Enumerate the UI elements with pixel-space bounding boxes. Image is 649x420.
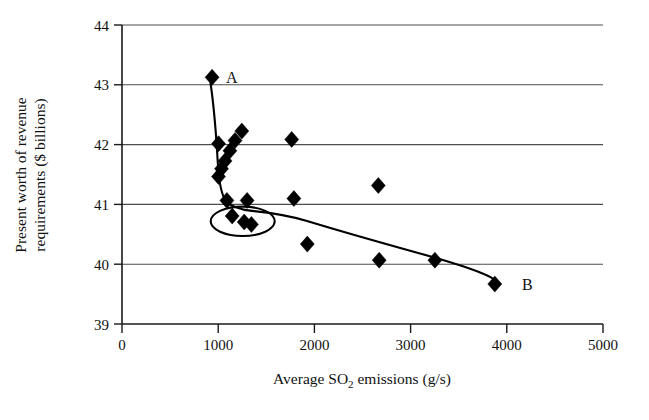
data-point [212,136,226,152]
y-tick-label-40: 40 [94,257,109,273]
data-point [428,252,442,268]
x-tick-label-0: 0 [118,337,126,353]
gridlines-group [122,25,603,264]
y-tick-label-41: 41 [94,197,109,213]
y-axis-title: Present worth of revenue requirements ($… [12,97,49,252]
data-point [225,208,239,224]
x-axis-title-prefix: Average SO [273,370,348,387]
y-axis-title-line2: requirements ($ billions) [31,98,49,251]
chart-figure: 44 43 42 41 40 39 0 1000 2000 3000 4000 … [0,0,649,420]
y-tick-label-39: 39 [94,317,109,333]
x-tick-label-3000: 3000 [396,337,426,353]
annotation-label-a: A [226,69,238,86]
y-axis-tick-labels: 44 43 42 41 40 39 [94,18,110,333]
x-tick-label-1000: 1000 [203,337,233,353]
scatter-chart: 44 43 42 41 40 39 0 1000 2000 3000 4000 … [0,0,649,420]
data-point [300,236,314,252]
data-point [488,276,502,292]
x-axis-title-suffix: emissions (g/s) [354,370,451,388]
x-tick-label-5000: 5000 [588,337,618,353]
x-axis-tick-labels: 0 1000 2000 3000 4000 5000 [118,337,618,353]
scatter-points [205,69,502,292]
data-point [371,178,385,194]
annotation-label-b: B [522,276,533,293]
y-axis-title-line1: Present worth of revenue [12,97,29,252]
data-point [372,252,386,268]
y-axis-ticks [114,25,122,324]
x-axis-title: Average SO2 emissions (g/s) [273,370,451,390]
frontier-curve [211,83,495,280]
y-tick-label-42: 42 [94,137,109,153]
x-tick-label-4000: 4000 [492,337,522,353]
x-axis-ticks [122,324,603,333]
data-point [205,69,219,85]
x-tick-label-2000: 2000 [299,337,329,353]
y-tick-label-43: 43 [94,77,109,93]
y-tick-label-44: 44 [94,18,110,34]
